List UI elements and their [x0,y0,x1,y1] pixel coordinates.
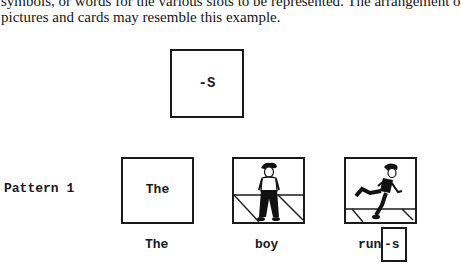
caption-run-stem: run [358,237,381,252]
suffix-card-text: -S [172,75,242,91]
body-text-line-2: pictures and cards may resemble this exa… [1,9,281,26]
boy-standing-illustration [234,159,303,222]
boy-running-illustration [346,159,415,222]
caption-the: The [145,237,168,252]
caption-run-suffix: -s [384,237,400,252]
picture-card-runs [344,157,417,224]
word-card-the-text: The [123,182,192,197]
suffix-card: -S [170,49,244,118]
caption-boy: boy [255,237,278,252]
word-card-the: The [121,157,194,224]
pattern-label: Pattern 1 [4,181,74,196]
picture-card-boy [232,157,305,224]
